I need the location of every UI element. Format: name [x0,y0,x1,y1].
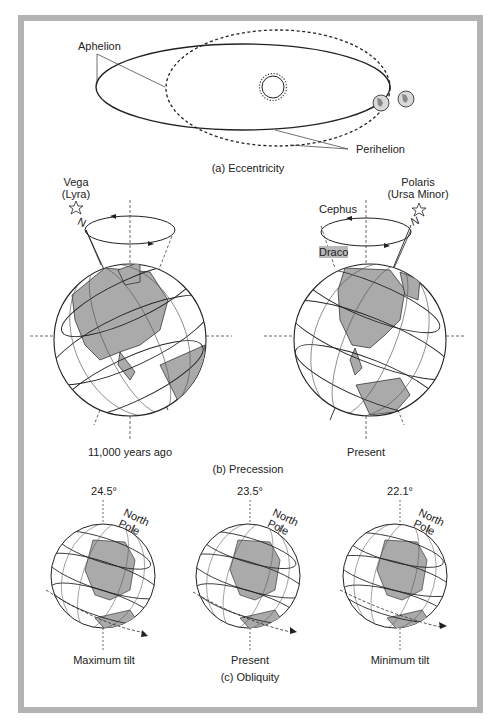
eccentricity-diagram [96,30,414,149]
polaris-label: Polaris [401,176,435,188]
lyra-label: (Lyra) [62,188,90,200]
earth-icon [373,95,389,111]
draco-label: Draco [319,246,348,258]
ursa-minor-label: (Ursa Minor) [387,188,448,200]
perihelion-label: Perihelion [356,143,405,155]
precession-caption: (b) Precession [213,463,284,475]
angle-label-present: 23.5° [237,485,263,497]
precession-globe-past [30,200,232,440]
present-time-label: Present [347,446,385,458]
eccentric-orbit [96,44,390,130]
sun-icon [260,74,287,101]
max-tilt-label: Maximum tilt [73,654,135,666]
star-icon [69,201,83,214]
obliquity-caption: (c) Obliquity [221,671,280,683]
figure-illustration [0,0,496,725]
present-tilt-label: Present [231,654,269,666]
angle-label-max: 24.5° [91,485,117,497]
vega-label: Vega [63,176,88,188]
aphelion-label: Aphelion [78,40,121,52]
past-time-label: 11,000 years ago [88,446,172,458]
earth-icon [398,91,414,107]
precession-globe-present [264,200,466,440]
cephus-label: Cephus [319,203,357,215]
angle-label-min: 22.1° [387,485,413,497]
min-tilt-label: Minimum tilt [371,654,430,666]
eccentricity-caption: (a) Eccentricity [212,162,285,174]
